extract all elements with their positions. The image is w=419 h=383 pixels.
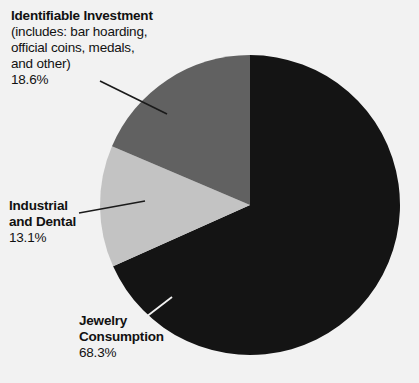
callout-detail-line-2: official coins, medals, [11,40,153,56]
callout-percent-jewelry-consumption: 68.3% [79,345,164,361]
callout-title-jewelry-line-2: Consumption [79,329,164,345]
callout-title-identifiable-investment: Identifiable Investment [11,8,153,24]
callout-percent-identifiable-investment: 18.6% [11,72,153,88]
callout-identifiable-investment: Identifiable Investment (includes: bar h… [11,8,153,88]
pie-chart: Identifiable Investment (includes: bar h… [0,0,419,383]
callout-industrial-and-dental: Industrial and Dental 13.1% [9,198,76,246]
callout-title-industrial-line-2: and Dental [9,214,76,230]
callout-detail-line-1: (includes: bar hoarding, [11,24,153,40]
callout-jewelry-consumption: Jewelry Consumption 68.3% [79,313,164,361]
callout-title-industrial-line-1: Industrial [9,198,76,214]
callout-title-jewelry-line-1: Jewelry [79,313,164,329]
callout-percent-industrial-and-dental: 13.1% [9,230,76,246]
callout-detail-line-3: and other) [11,56,153,72]
